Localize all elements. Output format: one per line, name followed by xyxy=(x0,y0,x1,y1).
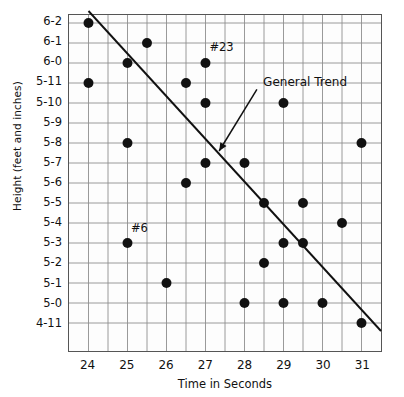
y-axis-tick-label: 5-5 xyxy=(43,197,62,209)
y-axis-tick-label: 5-7 xyxy=(43,157,62,169)
y-axis-tick-label: 5-8 xyxy=(43,137,62,149)
trend-and-annotation-layer xyxy=(69,15,381,351)
y-axis-tick-label: 5-6 xyxy=(43,177,62,189)
y-axis-tick-label: 5-0 xyxy=(43,298,62,310)
y-axis-tick-labels: 6-26-16-05-115-105-95-85-75-65-55-45-35-… xyxy=(0,14,62,352)
y-axis-tick-label: 5-11 xyxy=(36,77,62,89)
x-axis-tick-label: 25 xyxy=(119,359,134,371)
x-axis-title: Time in Seconds xyxy=(68,377,382,391)
x-axis-tick-label: 27 xyxy=(198,359,213,371)
y-axis-tick-label: 4-11 xyxy=(36,318,62,330)
trend-line-label: General Trend xyxy=(263,76,347,88)
y-axis-tick-label: 6-0 xyxy=(43,57,62,69)
y-axis-tick-label: 5-3 xyxy=(43,238,62,250)
y-axis-tick-label: 5-4 xyxy=(43,217,62,229)
x-axis-tick-label: 31 xyxy=(355,359,370,371)
x-axis-tick-label: 26 xyxy=(158,359,173,371)
x-axis-tick-label: 29 xyxy=(276,359,291,371)
y-axis-tick-label: 5-2 xyxy=(43,258,62,270)
scatter-chart: Height (feet and inches) 6-26-16-05-115-… xyxy=(0,0,404,397)
plot-area xyxy=(68,14,382,352)
y-axis-tick-label: 5-1 xyxy=(43,278,62,290)
y-axis-tick-label: 5-9 xyxy=(43,117,62,129)
x-axis-tick-label: 30 xyxy=(315,359,330,371)
y-axis-tick-label: 6-2 xyxy=(43,16,62,28)
y-axis-tick-label: 5-10 xyxy=(36,97,62,109)
y-axis-tick-label: 6-1 xyxy=(43,36,62,48)
x-axis-tick-label: 28 xyxy=(237,359,252,371)
data-point-label: #6 xyxy=(131,223,148,235)
data-point-label: #23 xyxy=(209,42,233,54)
x-axis-tick-label: 24 xyxy=(80,359,95,371)
x-axis-tick-labels: 2425262728293031 xyxy=(68,359,382,375)
